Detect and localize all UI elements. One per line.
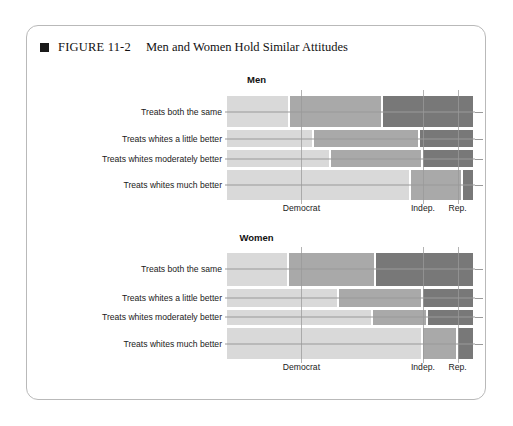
square-bullet-icon <box>40 43 49 52</box>
leader-line <box>225 269 475 270</box>
axis-tick-right <box>475 269 483 270</box>
axis-tick-democrat <box>301 247 302 363</box>
leader-line <box>225 158 475 159</box>
panel-title-men: Men <box>0 74 513 85</box>
row-label: Treats whites much better <box>0 180 222 190</box>
row-label: Treats both the same <box>0 264 222 274</box>
axis-label-democrat: Democrat <box>283 362 320 372</box>
leader-line <box>225 297 475 298</box>
row-label: Treats both the same <box>0 107 222 117</box>
axis-label-rep: Rep. <box>449 362 467 372</box>
axis-tick-rep <box>458 247 459 363</box>
axis-label-rep: Rep. <box>449 203 467 213</box>
axis-tick-indep <box>423 90 424 204</box>
panel-title-women: Women <box>0 232 513 243</box>
figure-page: FIGURE 11-2 Men and Women Hold Similar A… <box>0 0 513 426</box>
leader-line <box>225 185 475 186</box>
axis-tick-right <box>475 298 483 299</box>
axis-label-indep: Indep. <box>411 203 435 213</box>
row-label: Treats whites a little better <box>0 293 222 303</box>
leader-line <box>225 111 475 112</box>
figure-number: FIGURE 11-2 <box>58 40 131 55</box>
leader-line <box>225 343 475 344</box>
axis-tick-right <box>475 139 483 140</box>
axis-label-indep: Indep. <box>411 362 435 372</box>
axis-tick-right <box>475 344 483 345</box>
axis-tick-rep <box>458 90 459 204</box>
axis-tick-right <box>475 159 483 160</box>
axis-tick-right <box>475 317 483 318</box>
axis-tick-indep <box>423 247 424 363</box>
figure-title: Men and Women Hold Similar Attitudes <box>146 40 348 55</box>
row-label: Treats whites much better <box>0 339 222 349</box>
leader-line <box>225 317 475 318</box>
figure-caption: FIGURE 11-2 Men and Women Hold Similar A… <box>40 40 348 55</box>
axis-label-democrat: Democrat <box>283 203 320 213</box>
axis-tick-democrat <box>301 90 302 204</box>
leader-line <box>225 138 475 139</box>
row-label: Treats whites a little better <box>0 134 222 144</box>
row-label: Treats whites moderately better <box>0 312 222 322</box>
axis-tick-right <box>475 185 483 186</box>
row-label: Treats whites moderately better <box>0 154 222 164</box>
axis-tick-right <box>475 112 483 113</box>
